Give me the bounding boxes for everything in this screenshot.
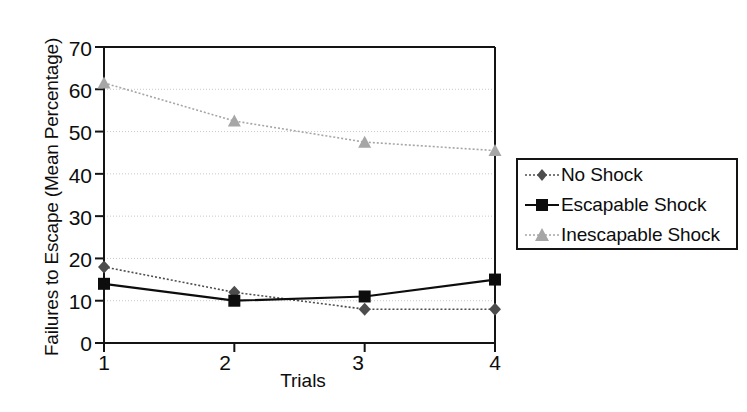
data-series-layer	[98, 76, 502, 315]
legend-item-escapable-shock[interactable]: Escapable Shock	[518, 190, 736, 220]
data-point-marker	[359, 303, 371, 316]
data-point-marker	[489, 303, 501, 316]
legend-item-no-shock[interactable]: No Shock	[518, 160, 736, 190]
series-line	[104, 83, 495, 151]
axis-ticks	[95, 47, 495, 352]
data-point-marker	[228, 115, 241, 127]
data-point-marker	[98, 260, 110, 273]
legend-label-no-shock: No Shock	[561, 165, 643, 185]
data-point-marker	[359, 290, 371, 302]
data-point-marker	[228, 295, 240, 307]
series-line	[104, 280, 495, 301]
data-point-marker	[98, 76, 111, 88]
chart-figure: Failures to Escape (Mean Percentage) 70 …	[0, 0, 747, 412]
triangle-marker-icon	[523, 224, 561, 246]
data-point-marker	[98, 278, 110, 290]
series-escapable-shock	[98, 274, 501, 307]
legend-label-escapable-shock: Escapable Shock	[561, 195, 706, 215]
series-no-shock	[98, 260, 501, 315]
series-inescapable-shock	[98, 76, 502, 156]
diamond-marker-icon	[523, 164, 561, 186]
square-marker-icon	[523, 194, 561, 216]
gridlines	[104, 89, 495, 300]
data-point-marker	[489, 274, 501, 286]
legend-label-inescapable-shock: Inescapable Shock	[561, 225, 720, 245]
legend-item-inescapable-shock[interactable]: Inescapable Shock	[518, 220, 736, 250]
legend: No Shock Escapable Shock Inescapable Sho…	[516, 158, 738, 250]
